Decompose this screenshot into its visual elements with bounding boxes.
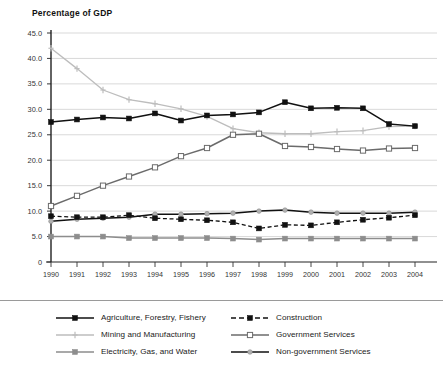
data-point: [309, 106, 314, 111]
data-point: [387, 215, 392, 220]
x-axis-tick-label: 1993: [121, 270, 137, 279]
legend-item-mining[interactable]: Mining and Manufacturing: [55, 329, 230, 341]
y-axis-tick-label: 0: [38, 258, 42, 267]
data-point: [387, 211, 392, 216]
legend-item-electricity[interactable]: Electricity, Gas, and Water: [55, 346, 230, 358]
data-point: [257, 237, 262, 242]
data-point: [230, 132, 235, 137]
data-point: [231, 236, 236, 241]
legend-swatch-electricity: [55, 346, 95, 358]
legend-grid: Agriculture, Forestry, FisheryConstructi…: [55, 309, 405, 360]
plot-area: 05.010.015.020.025.030.035.040.045.01990…: [0, 0, 443, 300]
data-point: [247, 332, 252, 337]
data-point: [361, 211, 366, 216]
data-point: [48, 203, 53, 208]
y-axis-tick-label: 45.0: [28, 29, 42, 38]
data-point: [283, 222, 288, 227]
series-line: [51, 48, 415, 133]
y-axis-tick-label: 20.0: [28, 156, 42, 165]
data-point: [283, 208, 288, 213]
data-point: [231, 112, 236, 117]
series-mining-and-manufacturing: [48, 45, 417, 137]
data-point: [100, 183, 105, 188]
x-axis-tick-label: 1994: [147, 270, 163, 279]
y-gridlines: 05.010.015.020.025.030.035.040.045.0: [28, 29, 437, 267]
data-point: [205, 211, 210, 216]
y-axis-tick-label: 35.0: [28, 79, 42, 88]
x-axis-tick-label: 1999: [277, 270, 293, 279]
data-point: [387, 236, 392, 241]
data-point: [283, 100, 288, 105]
legend-swatch-agriculture: [55, 312, 95, 324]
data-point: [205, 113, 210, 118]
y-axis-tick-label: 25.0: [28, 130, 42, 139]
legend-swatch-nongovernment: [230, 346, 270, 358]
legend-item-construction[interactable]: Construction: [230, 312, 405, 324]
series-line: [51, 134, 415, 206]
legend-item-nongovernment[interactable]: Non-government Services: [230, 346, 405, 358]
x-axis-tick-label: 2000: [303, 270, 319, 279]
data-point: [335, 220, 340, 225]
data-point: [309, 223, 314, 228]
data-point: [309, 236, 314, 241]
data-point: [248, 349, 253, 354]
legend-swatch-construction: [230, 312, 270, 324]
data-point: [283, 236, 288, 241]
data-point: [75, 234, 80, 239]
data-point: [257, 226, 262, 231]
data-point: [75, 215, 80, 220]
legend-item-government[interactable]: Government Services: [230, 329, 405, 341]
data-point: [257, 209, 262, 214]
x-axis-tick-label: 1991: [69, 270, 85, 279]
data-point: [361, 236, 366, 241]
x-axis-tick-label: 2001: [329, 270, 345, 279]
data-point: [248, 315, 253, 320]
x-axis-tick-label: 2002: [355, 270, 371, 279]
data-point: [73, 315, 78, 320]
series-government-services: [48, 131, 417, 208]
x-axis-tick-label: 1995: [173, 270, 189, 279]
y-axis-tick-label: 5.0: [32, 232, 42, 241]
data-point: [412, 145, 417, 150]
series-electricity-gas-and-water: [49, 234, 418, 242]
chart-page: Percentage of GDP 05.010.015.020.025.030…: [0, 0, 443, 365]
chart-legend: Agriculture, Forestry, FisheryConstructi…: [0, 300, 443, 365]
legend-label: Agriculture, Forestry, Fishery: [101, 313, 206, 322]
data-point: [205, 236, 210, 241]
data-point: [308, 144, 313, 149]
data-point: [204, 145, 209, 150]
data-point: [179, 217, 184, 222]
data-point: [335, 105, 340, 110]
legend-label: Mining and Manufacturing: [101, 330, 195, 339]
data-point: [49, 219, 54, 224]
data-point: [49, 214, 54, 219]
y-axis-tick-label: 40.0: [28, 54, 42, 63]
data-point: [335, 236, 340, 241]
data-point: [127, 236, 132, 241]
data-point: [413, 124, 418, 129]
data-point: [386, 146, 391, 151]
x-axis-tick-label: 1998: [251, 270, 267, 279]
data-point: [75, 117, 80, 122]
legend-label: Electricity, Gas, and Water: [101, 347, 197, 356]
data-point: [74, 193, 79, 198]
data-point: [231, 211, 236, 216]
data-point: [257, 110, 262, 115]
x-axis-tick-label: 1992: [95, 270, 111, 279]
data-point: [231, 220, 236, 225]
legend-label: Non-government Services: [276, 347, 371, 356]
x-axis-tick-label: 2004: [407, 270, 423, 279]
data-point: [152, 165, 157, 170]
x-axis-tick-label: 1990: [43, 270, 59, 279]
y-axis-tick-label: 10.0: [28, 207, 42, 216]
data-point: [101, 115, 106, 120]
y-axis-tick-label: 30.0: [28, 105, 42, 114]
legend-swatch-government: [230, 329, 270, 341]
legend-item-agriculture[interactable]: Agriculture, Forestry, Fishery: [55, 312, 230, 324]
data-point: [179, 212, 184, 217]
x-axis-tick-label: 2003: [381, 270, 397, 279]
legend-label: Government Services: [276, 330, 355, 339]
data-point: [361, 217, 366, 222]
data-point: [101, 234, 106, 239]
data-point: [49, 234, 54, 239]
